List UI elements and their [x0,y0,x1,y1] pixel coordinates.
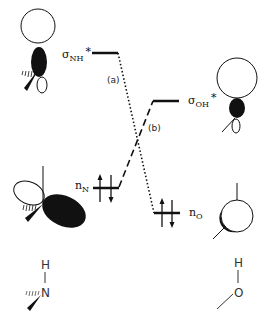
sigma-oh-star-orbital [217,58,257,133]
large-lobe-icon [21,9,55,43]
n-atom-label: N [41,286,50,300]
bond-line-icon [217,294,233,309]
oh-fragment: H O [217,256,243,309]
sigma-nh-star-label: σNH* [62,45,92,63]
wedge-bond-icon [27,295,41,311]
small-lobe-icon [232,119,240,133]
hashed-bond-icon [26,291,39,296]
o-atom-label: O [234,286,243,300]
interaction-a-line [118,53,154,213]
sigma-oh-star-label: σOH* [188,91,217,109]
n-o-orbital [213,183,253,239]
interaction-a-label: (a) [107,75,120,85]
large-lobe-icon [37,188,91,235]
n-n-label: nN [75,179,89,194]
mo-diagram: σNH* σOH* (a) (b) nN nO [0,0,268,331]
h-atom-label: H [234,256,243,270]
small-lobe-icon [37,77,47,93]
shaded-lobe-icon [229,98,245,118]
interaction-b-label: (b) [148,123,161,133]
wedge-bond-icon [24,70,38,91]
bond-line-icon [213,226,226,239]
wedge-bond-icon [25,204,43,222]
h-atom-label: H [41,258,50,272]
nh-fragment: H N [26,258,50,311]
hashed-bond-icon [23,205,36,211]
interaction-b-line [119,101,153,187]
large-lobe-icon [217,58,257,98]
n-o-label: nO [189,206,203,221]
lobe-icon [221,200,253,232]
shaded-lobe-icon [31,47,47,77]
sigma-nh-star-orbital [21,9,55,93]
n-n-orbital [10,166,91,234]
